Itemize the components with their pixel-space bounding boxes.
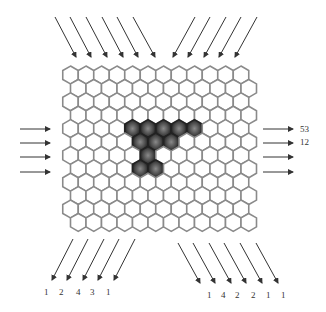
hex-cell[interactable] [133,213,149,231]
arrow-top-right-icon [235,17,257,57]
clue-bottom-right: 1 [266,291,271,300]
hex-cell[interactable] [102,213,118,231]
hex-grid [63,66,257,231]
clue-bottom-right: 1 [207,291,212,300]
hex-cell[interactable] [241,213,257,231]
hex-cell[interactable] [148,213,164,231]
arrow-top-left-icon [86,17,107,57]
clue-bottom-left: 4 [76,288,81,297]
clue-right: 12 [300,138,309,147]
clue-bottom-right: 4 [221,291,226,300]
arrow-bottom-left-icon [114,239,135,280]
hex-cell[interactable] [179,213,195,231]
hex-cell[interactable] [71,213,87,231]
clue-bottom-left: 2 [59,288,64,297]
hex-cell[interactable] [117,213,133,231]
clue-bottom-right: 2 [235,291,240,300]
hex-cell[interactable] [210,213,226,231]
clue-bottom-right: 1 [281,291,286,300]
hex-cell[interactable] [86,213,102,231]
hex-puzzle-board [0,0,326,312]
clue-bottom-left: 1 [106,288,111,297]
hex-cell[interactable] [164,213,180,231]
clue-bottom-left: 3 [90,288,95,297]
clue-bottom-left: 1 [44,288,49,297]
hex-cell[interactable] [226,213,242,231]
arrow-bottom-right-icon [256,243,278,283]
arrow-top-left-icon [133,17,155,57]
hex-cell[interactable] [195,213,211,231]
arrow-bottom-right-icon [240,243,262,283]
clue-right: 53 [300,125,309,134]
clue-bottom-right: 2 [251,291,256,300]
